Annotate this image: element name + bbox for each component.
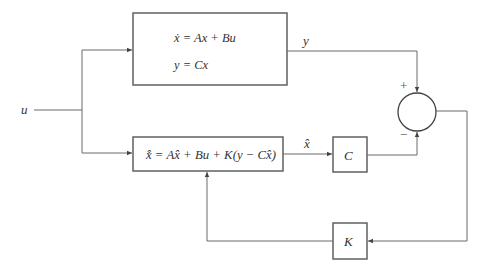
y-label: y bbox=[301, 33, 309, 48]
observer-equation: x̂̇ = Ax̂ + Bu + K(y − Cx̂) bbox=[145, 148, 276, 162]
k-block: K bbox=[333, 223, 367, 259]
plant-state-equation: ẋ = Ax + Bu bbox=[173, 31, 236, 45]
c-block: C bbox=[333, 137, 367, 172]
k-block-label: K bbox=[343, 234, 354, 249]
plant-block: ẋ = Ax + Bu y = Cx bbox=[133, 13, 287, 85]
c-block-label: C bbox=[344, 148, 353, 163]
plus-sign: + bbox=[400, 78, 407, 93]
observer-block-diagram: u ẋ = Ax + Bu y = Cx y + − x̂̇ = Ax̂ + B… bbox=[0, 0, 485, 273]
observer-block: x̂̇ = Ax̂ + Bu + K(y − Cx̂) bbox=[133, 137, 283, 171]
input-label: u bbox=[21, 102, 28, 117]
minus-sign: − bbox=[400, 127, 407, 142]
plant-output-equation: y = Cx bbox=[172, 58, 209, 72]
xhat-label: x̂ bbox=[303, 136, 310, 151]
